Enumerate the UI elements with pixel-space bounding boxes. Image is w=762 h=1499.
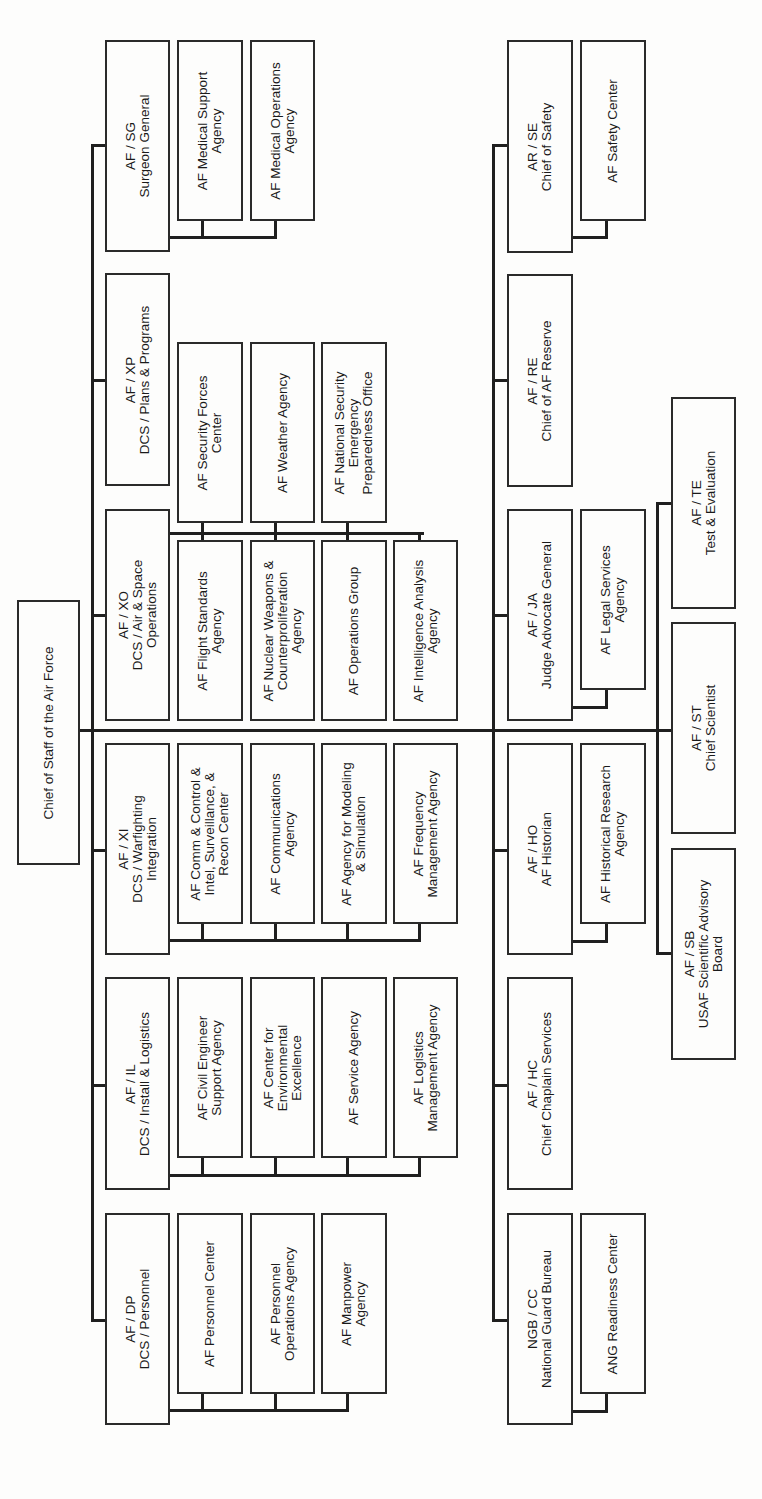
- org-box-label: NGB / CC National Guard Bureau: [526, 1250, 554, 1388]
- org-box-label: AF / HC Chief Chaplain Services: [526, 1011, 554, 1155]
- connector-line: [91, 1319, 106, 1322]
- org-box-sg: AF / SG Surgeon General: [105, 40, 170, 252]
- org-box-label: AF / ST Chief Scientist: [690, 685, 718, 771]
- org-box-te: AF / TE Test & Evaluation: [671, 397, 736, 609]
- org-box-label: AF Medical Operations Agency: [269, 62, 297, 199]
- org-box-il-cesa: AF Civil Engineer Support Agency: [177, 977, 243, 1158]
- org-box-label: AF Civil Engineer Support Agency: [196, 1015, 224, 1119]
- org-box-st: AF / ST Chief Scientist: [671, 622, 736, 834]
- org-box-dp: AF / DP DCS / Personnel: [105, 1213, 170, 1425]
- org-box-label: AF Nuclear Weapons & Counterproliferatio…: [262, 560, 304, 701]
- org-box-dp-ma: AF Manpower Agency: [321, 1213, 387, 1394]
- connector-line: [274, 1393, 277, 1410]
- org-box-label: AF / SB USAF Scientific Advisory Board: [683, 880, 725, 1029]
- connector-line: [169, 532, 424, 535]
- connector-line: [656, 502, 659, 955]
- connector-line: [79, 729, 675, 732]
- org-box-label: AF / DP DCS / Personnel: [124, 1269, 152, 1370]
- org-box-label: AF Agency for Modeling & Simulation: [340, 762, 368, 905]
- connector-line: [91, 1084, 106, 1087]
- org-box-label: AR / SE Chief of Safety: [526, 102, 554, 191]
- connector-line: [346, 523, 349, 540]
- org-box-label: AF Flight Standards Agency: [196, 571, 224, 690]
- connector-line: [91, 379, 106, 382]
- connector-line: [91, 144, 94, 1322]
- org-box-xo-wx: AF Weather Agency: [250, 342, 315, 523]
- org-box-re: AF / RE Chief of AF Reserve: [507, 274, 573, 487]
- org-box-hc: AF / HC Chief Chaplain Services: [507, 977, 573, 1190]
- org-box-label: AF / XO DCS / Air & Space Operations: [117, 560, 159, 670]
- org-box-il-lma: AF Logistics Management Agency: [393, 977, 458, 1158]
- connector-line: [169, 236, 277, 239]
- org-box-label: AF Weather Agency: [276, 373, 290, 493]
- org-box-label: AF / XP DCS / Plans & Programs: [124, 305, 152, 454]
- connector-line: [492, 1084, 507, 1087]
- connector-line: [572, 1410, 608, 1413]
- org-box-xi-fma: AF Frequency Management Agency: [393, 743, 458, 924]
- org-box-label: AF Security Forces Center: [196, 375, 224, 490]
- org-box-label: AF Logistics Management Agency: [412, 1004, 440, 1131]
- org-box-label: AF Center for Environmental Excellence: [262, 1024, 304, 1110]
- connector-line: [605, 1393, 608, 1411]
- connector-line: [201, 523, 204, 540]
- org-box-xi-c2isr: AF Comm & Control & Intel, Surveillance,…: [177, 743, 243, 924]
- connector-line: [572, 236, 608, 239]
- connector-line: [346, 1158, 349, 1175]
- connector-line: [656, 952, 671, 955]
- org-box-il-cee: AF Center for Environmental Excellence: [250, 977, 315, 1158]
- connector-line: [492, 849, 507, 852]
- connector-line: [656, 502, 671, 505]
- org-box-label: ANG Readiness Center: [606, 1233, 620, 1374]
- connector-line: [169, 1174, 421, 1177]
- connector-line: [201, 1393, 204, 1410]
- org-box-sb: AF / SB USAF Scientific Advisory Board: [671, 848, 736, 1060]
- org-box-label: AF / IL DCS / Install & Logistics: [124, 1011, 152, 1155]
- connector-line: [572, 940, 608, 943]
- connector-line: [418, 1158, 421, 1175]
- org-box-xo-og: AF Operations Group: [321, 540, 387, 721]
- org-box-label: AF Personnel Center: [203, 1240, 217, 1366]
- org-box-label: AF Operations Group: [347, 566, 361, 694]
- org-box-label: AF Medical Support Agency: [196, 71, 224, 190]
- org-box-label: AF Manpower Agency: [340, 1261, 368, 1345]
- connector-line: [201, 220, 204, 237]
- org-box-ja-lsa: AF Legal Services Agency: [580, 509, 646, 690]
- connector-line: [572, 706, 608, 709]
- org-box-xo-sfc: AF Security Forces Center: [177, 342, 243, 523]
- connector-line: [346, 1393, 349, 1410]
- connector-line: [605, 923, 608, 941]
- connector-line: [492, 379, 507, 382]
- org-box-dp-poa: AF Personnel Operations Agency: [250, 1213, 315, 1394]
- org-box-label: AF / HO AF Historian: [526, 812, 554, 886]
- org-box-xo: AF / XO DCS / Air & Space Operations: [105, 509, 170, 721]
- org-box-xp: AF / XP DCS / Plans & Programs: [105, 273, 170, 486]
- org-box-label: AF Comm & Control & Intel, Surveillance,…: [189, 767, 231, 901]
- connector-line: [418, 532, 421, 540]
- connector-line: [492, 144, 495, 1322]
- org-box-label: AF Communications Agency: [269, 773, 297, 895]
- connector-line: [274, 523, 277, 540]
- org-box-label: AF / SG Surgeon General: [124, 95, 152, 198]
- connector-line: [492, 1319, 507, 1322]
- connector-line: [346, 923, 349, 940]
- connector-line: [274, 1158, 277, 1175]
- connector-line: [418, 923, 421, 940]
- connector-line: [169, 1409, 349, 1412]
- org-box-label: AF Historical Research Agency: [599, 764, 627, 902]
- org-box-xo-iaa: AF Intelligence Analysis Agency: [393, 540, 458, 721]
- org-box-label: AF National Security Emergency Preparedn…: [333, 371, 375, 494]
- org-box-il-sa: AF Service Agency: [321, 977, 387, 1158]
- connector-line: [201, 1158, 204, 1175]
- connector-line: [169, 939, 421, 942]
- connector-line: [91, 144, 106, 147]
- org-box-label: Chief of Staff of the Air Force: [42, 646, 56, 819]
- org-box-label: AF Safety Center: [606, 79, 620, 183]
- org-box-label: AF Frequency Management Agency: [412, 770, 440, 897]
- org-box-xi-ca: AF Communications Agency: [250, 743, 315, 924]
- org-box-ho-hra: AF Historical Research Agency: [580, 743, 646, 924]
- connector-line: [492, 614, 507, 617]
- org-box-label: AF / TE Test & Evaluation: [690, 451, 718, 555]
- org-box-xi-ams: AF Agency for Modeling & Simulation: [321, 743, 387, 924]
- org-box-se-sc: AF Safety Center: [580, 40, 646, 221]
- org-box-sg-moa: AF Medical Operations Agency: [250, 40, 315, 221]
